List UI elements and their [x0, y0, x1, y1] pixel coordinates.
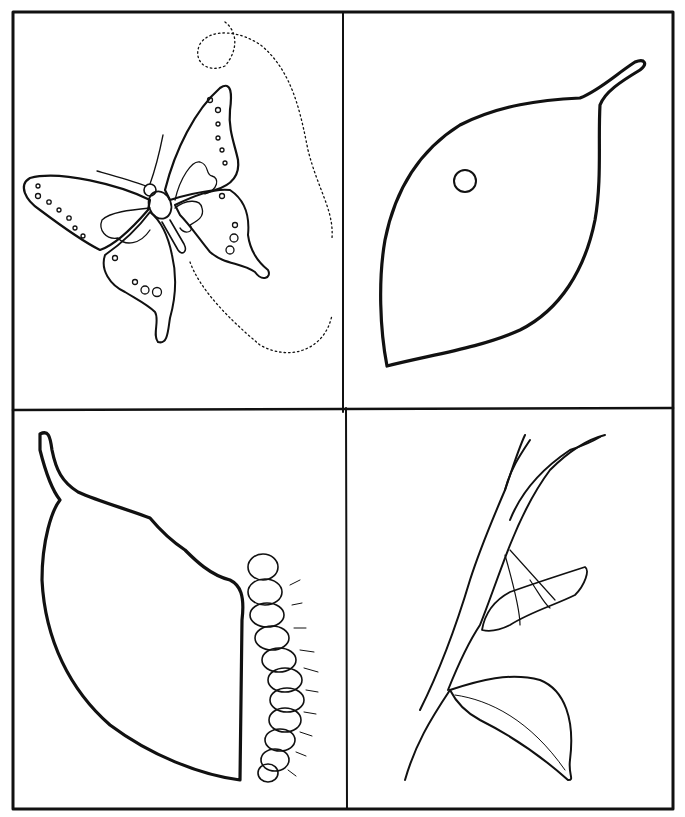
caterpillar-illustration: [40, 433, 318, 782]
panel-frame: [13, 12, 673, 809]
butterfly-illustration: [24, 22, 332, 353]
chrysalis-illustration: [405, 435, 605, 780]
egg-on-leaf-illustration: [381, 61, 645, 366]
life-cycle-worksheet: [0, 0, 685, 817]
